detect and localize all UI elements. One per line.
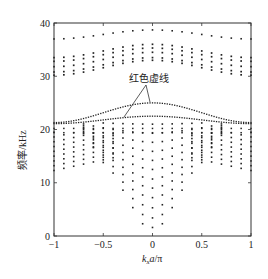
y-axis-label: 频率/kHz [16,130,28,170]
data-points [53,29,252,228]
band-structure-chart: −1−0.500.51010203040 红色虚线 kxa/π 频率/kHz [0,0,268,279]
y-tick-label: 10 [40,177,50,188]
annotation-arrow-2 [146,85,150,102]
y-tick-label: 0 [45,231,50,242]
annotation-label: 红色虚线 [129,72,169,84]
y-tick-label: 30 [40,71,50,82]
annotation-arrow-1 [124,85,146,117]
y-tick-label: 20 [40,124,50,135]
x-tick-label: −1 [49,239,60,250]
annotation: 红色虚线 [124,72,169,117]
x-axis-label: kxa/π [142,253,162,266]
x-tick-label: 0 [150,239,155,250]
x-tick-label: −0.5 [94,239,112,250]
x-tick-label: 1 [249,239,254,250]
y-tick-label: 40 [40,18,50,29]
x-tick-label: 0.5 [196,239,209,250]
